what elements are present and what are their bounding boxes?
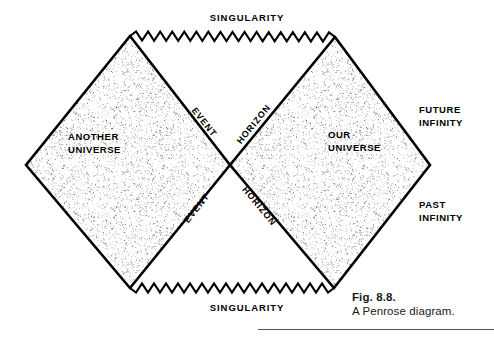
region-another-universe [26,36,230,288]
our-universe-fill [230,37,430,288]
penrose-figure: SINGULARITY SINGULARITY ANOTHER UNIVERSE… [0,0,494,337]
singularity-zigzag-top [130,31,335,41]
another-universe-fill [26,36,230,288]
label-future-infinity-line2: INFINITY [419,117,463,128]
label-singularity-top: SINGULARITY [210,12,284,23]
figure-number: Fig. 8.8. [352,290,492,304]
label-future-infinity-line1: FUTURE [419,104,461,115]
label-past-infinity: PAST INFINITY [419,199,463,223]
label-past-infinity-line2: INFINITY [419,212,463,223]
label-past-infinity-line1: PAST [419,199,446,210]
figure-caption-text: A Penrose diagram. [352,304,492,318]
region-our-universe [230,37,430,288]
label-future-infinity: FUTURE INFINITY [419,104,463,128]
figure-caption: Fig. 8.8. A Penrose diagram. [352,290,492,318]
label-our-universe-line2: UNIVERSE [328,142,381,153]
label-singularity-bottom: SINGULARITY [210,302,284,313]
penrose-diagram-canvas: SINGULARITY SINGULARITY ANOTHER UNIVERSE… [0,0,494,337]
caption-divider-rule [258,329,494,330]
label-another-universe-line1: ANOTHER [68,131,119,142]
label-our-universe-line1: OUR [328,129,351,140]
singularity-zigzag-bottom [130,283,334,292]
label-another-universe-line2: UNIVERSE [68,144,121,155]
